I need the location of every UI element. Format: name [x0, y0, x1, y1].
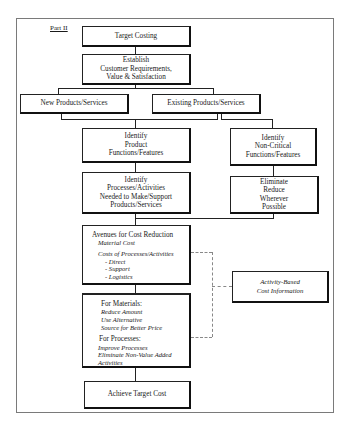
node-label: Wherever: [260, 195, 288, 203]
connector: [273, 165, 274, 176]
node-label: Activity-Based: [260, 278, 300, 286]
node-label: Non-Critical: [255, 142, 291, 150]
connector: [272, 119, 273, 128]
node-abc: Activity-Based Cost Information: [232, 271, 329, 303]
dashed-connector: [191, 337, 212, 338]
node-achieve: Achieve Target Cost: [84, 381, 191, 409]
connector: [135, 367, 136, 381]
node-item: Source for Better Price: [101, 324, 162, 332]
node-identify-functions: Identify Product Functions/Features: [82, 128, 191, 163]
node-label: Needed to Make/Support: [100, 193, 172, 201]
node-label: Identify: [125, 132, 148, 140]
node-label: Reduce: [263, 186, 285, 194]
node-eliminate: Eliminate Reduce Wherever Possible: [230, 176, 319, 214]
node-label: Achieve Target Cost: [108, 390, 167, 398]
node-actions: For Materials: Reduce Amount Use Alterna…: [82, 293, 191, 368]
node-label: Possible: [262, 203, 286, 211]
connector: [58, 88, 214, 89]
connector: [221, 119, 273, 120]
node-item: Material Cost: [92, 239, 135, 247]
node-target-costing: Target Costing: [82, 26, 191, 47]
part-label: Part II: [50, 24, 68, 32]
node-label: Eliminate: [260, 178, 288, 186]
connector: [135, 213, 136, 225]
node-label: Identify: [125, 176, 148, 184]
node-item: Use Alternative: [101, 316, 142, 324]
node-label: Cost Information: [257, 287, 304, 295]
node-establish: Establish Customer Requirements, Value &…: [82, 54, 191, 85]
node-item: Eliminate Non-Value Added: [98, 351, 172, 359]
node-new-products: New Products/Services: [20, 94, 129, 114]
node-label: Products/Services: [110, 201, 162, 209]
node-label: New Products/Services: [41, 99, 108, 107]
dashed-connector: [191, 252, 212, 253]
connector: [61, 119, 218, 120]
node-subitem: - Logistics: [92, 273, 133, 280]
node-label: Target Costing: [115, 32, 157, 40]
node-item: Activities: [98, 359, 123, 367]
node-label: Product: [125, 141, 147, 149]
node-item: Improve Processes: [98, 344, 148, 352]
node-label: Value & Satisfaction: [106, 73, 165, 81]
node-label: Existing Products/Services: [167, 99, 244, 107]
dashed-connector: [212, 252, 213, 337]
node-label: Functions/Features: [246, 151, 301, 159]
node-subitem: - Direct: [92, 258, 125, 265]
connector: [135, 218, 274, 219]
node-label: Establish: [123, 56, 149, 64]
dashed-connector: [212, 286, 232, 287]
node-title: For Materials:: [101, 300, 142, 308]
node-existing-products: Existing Products/Services: [152, 94, 261, 114]
node-identify-noncritical: Identify Non-Critical Functions/Features: [230, 128, 317, 166]
node-title: For Processes:: [99, 335, 141, 343]
node-title: Avenues for Cost Reduction: [92, 231, 173, 239]
node-label: Identify: [262, 134, 285, 142]
node-label: Functions/Features: [109, 149, 164, 157]
connector: [217, 113, 218, 120]
node-item: Costs of Processes/Activities: [92, 250, 174, 258]
node-label: Processes/Activities: [107, 184, 165, 192]
connector: [135, 284, 136, 293]
node-item: Reduce Amount: [101, 308, 142, 316]
node-label: Customer Requirements,: [100, 65, 171, 73]
connector: [135, 162, 136, 172]
connector: [135, 119, 136, 128]
node-subitem: - Support: [92, 265, 130, 272]
connector: [135, 46, 136, 54]
node-identify-processes: Identify Processes/Activities Needed to …: [82, 172, 191, 214]
node-avenues: Avenues for Cost Reduction Material Cost…: [82, 225, 191, 285]
